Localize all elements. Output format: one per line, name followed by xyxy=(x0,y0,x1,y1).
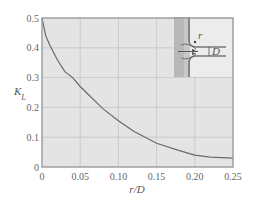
x-tick-label: 0.20 xyxy=(186,171,204,182)
chart: r D 00.050.100.150.200.25 00.10.20.30.40… xyxy=(0,0,254,208)
x-tick-label: 0 xyxy=(40,171,45,182)
x-tick-label: 0.25 xyxy=(224,171,242,182)
y-tick-label: 0.1 xyxy=(27,132,40,143)
inlet-diagram-inset: r D xyxy=(174,17,232,77)
y-tick-label: 0.3 xyxy=(27,72,40,83)
x-tick-label: 0.10 xyxy=(110,171,128,182)
y-axis-ticks: 00.10.20.30.40.5 xyxy=(27,13,40,173)
x-axis-ticks: 00.050.100.150.200.25 xyxy=(40,171,242,182)
x-axis-label: r/D xyxy=(129,183,144,195)
y-axis-label: KL xyxy=(13,85,26,102)
inset-D-label: D xyxy=(211,45,220,57)
x-tick-label: 0.05 xyxy=(71,171,89,182)
y-tick-label: 0 xyxy=(34,162,39,173)
y-tick-label: 0.4 xyxy=(27,42,40,53)
y-tick-label: 0.2 xyxy=(27,102,40,113)
x-tick-label: 0.15 xyxy=(148,171,166,182)
y-tick-label: 0.5 xyxy=(27,13,40,24)
inset-r-label: r xyxy=(198,29,203,41)
